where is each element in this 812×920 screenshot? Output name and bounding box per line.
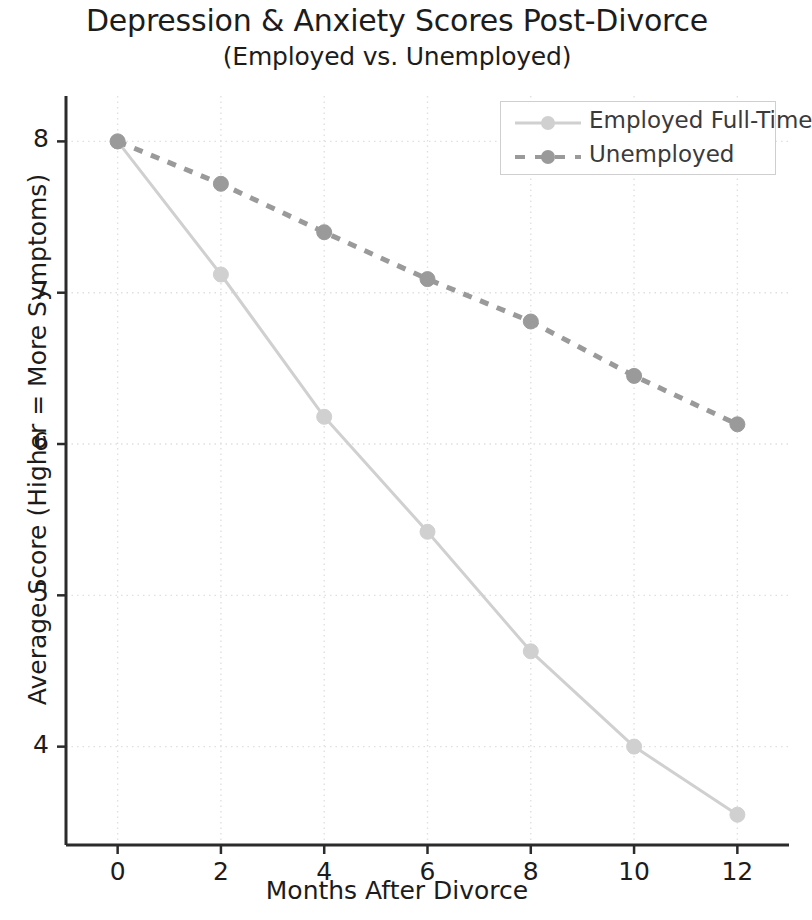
legend-marker [541,116,555,130]
data-point-marker [213,267,228,282]
data-point-marker [730,417,745,432]
gridlines [66,96,789,845]
series-line-0 [118,141,738,814]
legend-item: Employed Full-Time [501,106,777,139]
data-point-marker [317,409,332,424]
legend-swatch [513,140,583,173]
chart-legend: Employed Full-TimeUnemployed [500,101,776,175]
data-point-marker [523,644,538,659]
legend-marker [541,150,555,164]
data-point-marker [317,225,332,240]
y-axis-label: Average Score (Higher = More Symptoms) [23,120,52,760]
legend-swatch [513,106,583,139]
data-point-marker [523,314,538,329]
x-axis-label: Months After Divorce [0,876,794,905]
legend-label: Unemployed [589,141,734,167]
data-point-marker [420,272,435,287]
data-point-marker [213,176,228,191]
data-point-marker [110,134,125,149]
legend-item: Unemployed [501,140,777,173]
data-point-marker [627,368,642,383]
data-point-marker [730,807,745,822]
data-point-marker [420,524,435,539]
legend-label: Employed Full-Time [589,107,812,133]
data-point-marker [627,739,642,754]
